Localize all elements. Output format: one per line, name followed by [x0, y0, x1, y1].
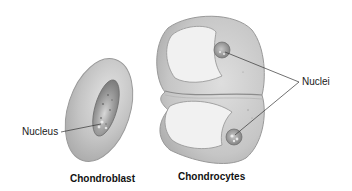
nucleus-callout-label: Nucleus: [22, 127, 58, 137]
upper-chondrocyte-nucleus: [214, 42, 230, 58]
nuclei-callout-label: Nuclei: [302, 77, 330, 87]
diagram-illustration: [0, 0, 352, 191]
chondrocytes-caption: Chondrocytes: [178, 172, 245, 182]
chondrocytes-group: [157, 16, 265, 163]
upper-lacuna: [167, 26, 222, 82]
chondroblast-caption: Chondroblast: [70, 174, 135, 184]
chondroblast-cell: [53, 50, 145, 170]
cartilage-cell-diagram: Nucleus Nuclei Chondroblast Chondrocytes: [0, 0, 352, 191]
